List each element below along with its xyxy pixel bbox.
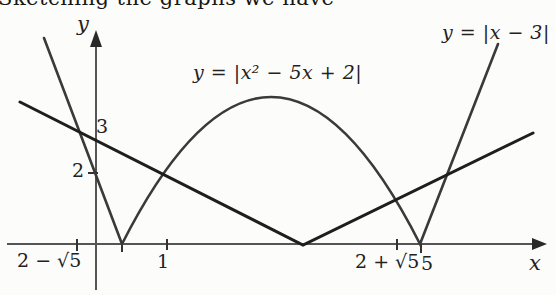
textbook-figure: Sketching the graphs we have y x y = |x²… <box>0 0 556 295</box>
parabola-equation-label: y = |x² − 5x + 2| <box>193 62 362 83</box>
y-tick-label-2: 2 <box>72 160 84 181</box>
y-tick-label-3: 3 <box>96 116 108 137</box>
x-tick-label-5: 5 <box>421 253 433 274</box>
absline-equation-label: y = |x − 3| <box>442 22 550 43</box>
x-tick-label-1: 1 <box>157 251 169 272</box>
y-axis-label: y <box>77 13 89 36</box>
x-tick-label-2-minus-sqrt5: 2 − √5 <box>17 250 81 271</box>
graph-canvas <box>0 0 556 295</box>
x-axis-arrowhead-icon <box>532 238 547 250</box>
y-axis-arrowhead-icon <box>90 30 102 47</box>
x-tick-label-2-plus-sqrt5: 2 + √5 <box>355 251 419 272</box>
x-axis-label: x <box>529 252 541 275</box>
